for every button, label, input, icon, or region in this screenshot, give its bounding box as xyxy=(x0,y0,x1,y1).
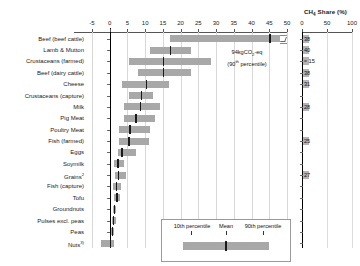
mean-marker-14 xyxy=(116,193,117,202)
ch4-value-label-4: 31 xyxy=(304,81,310,87)
ch4-y-tick-11 xyxy=(300,164,303,165)
peak-annotation: 94kgCO2-eq (90th percentile) xyxy=(210,49,284,68)
mean-marker-6 xyxy=(140,102,141,111)
ch4-y-tick-16 xyxy=(300,221,303,222)
mean-marker-7 xyxy=(135,114,136,123)
y-tick-16 xyxy=(107,221,110,222)
category-label-2: Crustaceans (farmed) xyxy=(26,57,84,65)
category-label-1: Lamb & Mutton xyxy=(43,46,84,54)
y-tick-15 xyxy=(107,209,110,210)
ch4-value-label-1: 40 xyxy=(304,47,310,53)
ch4-tick-label-0: 0 xyxy=(294,20,310,26)
mean-marker-17 xyxy=(112,227,113,236)
range-bar-8 xyxy=(119,126,150,133)
main-plot-area: -505101520253035404550 Beef (beef cattle… xyxy=(92,32,287,248)
mean-marker-12 xyxy=(118,171,119,180)
range-bar-18 xyxy=(101,240,114,247)
annotation-line-1: 94kgCO2-eq xyxy=(210,49,284,58)
y-tick-14 xyxy=(107,198,110,199)
category-label-16: Pulses excl. peas xyxy=(37,217,84,225)
ch4-y-tick-8 xyxy=(300,130,303,131)
y-tick-0 xyxy=(107,39,110,40)
ch4-y-tick-17 xyxy=(300,232,303,233)
ch4-gridline-100 xyxy=(352,32,353,248)
ch4-y-tick-5 xyxy=(300,96,303,97)
x-tick-5 xyxy=(127,29,128,32)
y-tick-9 xyxy=(107,141,110,142)
zero-axis-line xyxy=(110,28,111,248)
legend-sample-mean-marker xyxy=(225,241,227,251)
category-label-7: Pig Meat xyxy=(60,114,84,122)
category-label-15: Groundnuts xyxy=(53,205,84,213)
category-label-4: Cheese xyxy=(63,80,84,88)
mean-marker-2 xyxy=(163,57,164,66)
y-tick-13 xyxy=(107,186,110,187)
range-bar-6 xyxy=(124,103,161,110)
x-tick-35 xyxy=(234,29,235,32)
ch4-value-label-2: ≈ 15 xyxy=(304,58,315,64)
mean-marker-10 xyxy=(121,148,122,157)
category-label-17: Peas xyxy=(70,228,84,236)
y-tick-2 xyxy=(107,61,110,62)
category-label-12: Grains2 xyxy=(64,171,84,181)
mean-marker-16 xyxy=(113,216,114,225)
category-label-11: Soymilk xyxy=(63,160,84,168)
ch4-y-tick-7 xyxy=(300,118,303,119)
category-label-0: Beef (beef cattle) xyxy=(38,35,84,43)
range-bar-12 xyxy=(115,172,126,179)
ch4-value-label-12: 27 xyxy=(304,172,310,178)
y-tick-4 xyxy=(107,84,110,85)
mean-marker-0 xyxy=(269,34,270,43)
y-tick-5 xyxy=(107,96,110,97)
mean-marker-18 xyxy=(110,239,111,248)
ch4-y-tick-13 xyxy=(300,186,303,187)
category-label-5: Crustaceans (capture) xyxy=(25,92,84,100)
x-tick-30 xyxy=(216,29,217,32)
x-tick-45 xyxy=(269,29,270,32)
y-tick-17 xyxy=(107,232,110,233)
mean-marker-15 xyxy=(114,205,115,214)
category-label-14: Tofu xyxy=(73,194,84,202)
legend-label-p90: 90th percentile xyxy=(236,223,290,229)
ch4-tick-0 xyxy=(302,29,303,32)
x-tick-10 xyxy=(145,29,146,32)
mean-marker-11 xyxy=(117,159,118,168)
ch4-value-label-0: 38 xyxy=(304,36,310,42)
ch4-value-label-6: 28 xyxy=(304,104,310,110)
mean-marker-9 xyxy=(128,137,129,146)
y-tick-3 xyxy=(107,73,110,74)
category-label-8: Poultry Meat xyxy=(50,126,84,134)
y-tick-6 xyxy=(107,107,110,108)
ch4-y-tick-18 xyxy=(300,243,303,244)
ch4-tick-label-50: 50 xyxy=(319,20,335,26)
legend-tick-mean xyxy=(226,231,227,235)
category-label-13: Fish (capture) xyxy=(47,182,84,190)
ch4-title-text: CH4 Share (%) xyxy=(304,8,347,15)
range-bar-9 xyxy=(119,138,149,145)
mean-marker-8 xyxy=(129,125,130,134)
y-tick-7 xyxy=(107,118,110,119)
ch4-panel-title: CH4 Share (%) xyxy=(295,8,356,17)
ch4-y-tick-14 xyxy=(300,198,303,199)
chart-legend: 10th percentile Mean 90th percentile xyxy=(161,219,291,262)
x-tick-25 xyxy=(198,29,199,32)
x-tick-50 xyxy=(287,29,288,32)
category-label-9: Fish (farmed) xyxy=(48,137,84,145)
mean-marker-5 xyxy=(141,91,142,100)
range-bar-10 xyxy=(118,149,137,156)
ch4-tick-label-100: 100 xyxy=(344,20,360,26)
category-label-6: Milk xyxy=(73,103,84,111)
range-bar-3 xyxy=(138,69,191,76)
category-label-18: Nuts3) xyxy=(68,239,84,249)
mean-marker-3 xyxy=(163,68,164,77)
gridline-50 xyxy=(287,32,288,248)
x-tick-20 xyxy=(181,29,182,32)
ch4-value-label-9: 25 xyxy=(304,138,310,144)
ch4-tick-100 xyxy=(352,29,353,32)
ch4-y-tick-15 xyxy=(300,209,303,210)
ch4-tick-50 xyxy=(327,29,328,32)
x-tick--5 xyxy=(92,29,93,32)
x-tick-15 xyxy=(163,29,164,32)
legend-tick-p10 xyxy=(191,231,192,235)
